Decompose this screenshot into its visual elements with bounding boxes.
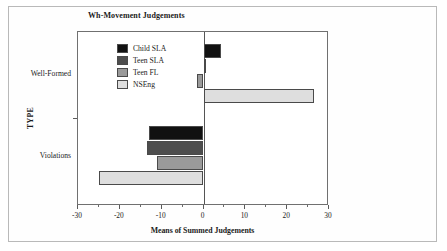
- x-tick-minor: [265, 205, 266, 207]
- x-tick-major: [77, 205, 78, 209]
- x-tick-minor: [182, 205, 183, 207]
- x-tick-label: -10: [156, 211, 166, 220]
- x-tick-major: [119, 205, 120, 209]
- legend-label: Teen FL: [133, 68, 158, 77]
- bar-teen-sla-well-formed: [204, 59, 206, 73]
- figure-container: Wh-Movement Judgements Child SLATeen SLA…: [0, 0, 447, 251]
- x-tick-minor: [98, 205, 99, 207]
- x-tick-major: [203, 205, 204, 209]
- x-tick-label: 30: [324, 211, 331, 220]
- bar-nseng-well-formed: [204, 89, 314, 103]
- legend-swatch-icon: [117, 68, 128, 77]
- bar-teen-fl-well-formed: [197, 74, 203, 88]
- bar-child-sla-well-formed: [204, 44, 222, 58]
- legend-swatch-icon: [117, 80, 128, 89]
- x-tick-minor: [140, 205, 141, 207]
- x-tick-label: -20: [114, 211, 124, 220]
- bar-teen-fl-violations: [157, 156, 203, 170]
- legend-item: Teen FL: [117, 66, 166, 78]
- x-tick-major: [286, 205, 287, 209]
- y-tick-label: Violations: [40, 150, 71, 159]
- x-tick-major: [244, 205, 245, 209]
- y-tick-mark: [73, 118, 77, 119]
- bar-nseng-violations: [99, 171, 204, 185]
- legend-swatch-icon: [117, 56, 128, 65]
- chart-title: Wh-Movement Judgements: [88, 11, 185, 20]
- x-tick-minor: [307, 205, 308, 207]
- x-tick-label: 20: [282, 211, 289, 220]
- legend-swatch-icon: [117, 44, 128, 53]
- legend-label: NSEng: [133, 80, 155, 89]
- bar-teen-sla-violations: [147, 141, 203, 155]
- legend-item: Teen SLA: [117, 54, 166, 66]
- x-tick-major: [328, 205, 329, 209]
- legend-item: NSEng: [117, 78, 166, 90]
- x-tick-label: -30: [72, 211, 82, 220]
- plot-area: [77, 31, 328, 205]
- bar-child-sla-violations: [149, 126, 203, 140]
- y-axis-title: TYPE: [26, 107, 35, 129]
- legend-label: Teen SLA: [133, 56, 164, 65]
- x-tick-minor: [223, 205, 224, 207]
- x-tick-label: 10: [241, 211, 248, 220]
- plot-inner: [78, 32, 327, 204]
- legend-item: Child SLA: [117, 42, 166, 54]
- x-tick-major: [161, 205, 162, 209]
- y-tick-label: Well-Formed: [31, 68, 71, 77]
- legend-label: Child SLA: [133, 44, 166, 53]
- x-axis-title: Means of Summed Judgements: [151, 226, 255, 235]
- chart-legend: Child SLATeen SLATeen FLNSEng: [117, 42, 166, 90]
- x-tick-label: 0: [201, 211, 205, 220]
